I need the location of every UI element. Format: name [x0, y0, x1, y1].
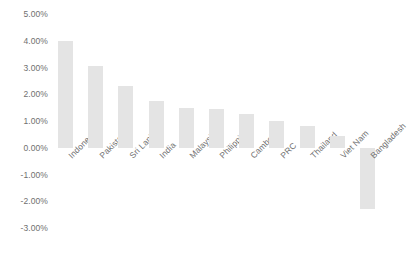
x-axis-tick-label: Bangladesh [369, 121, 407, 159]
bar [209, 109, 224, 148]
y-axis-tick-label: -3.00% [0, 224, 48, 233]
y-axis-tick-label: 4.00% [0, 37, 48, 46]
plot-area: IndonesiaPakistanSri LankaIndiaMalaysiaP… [52, 0, 415, 253]
y-axis-tick-label: 2.00% [0, 90, 48, 99]
y-axis: 5.00%4.00%3.00%2.00%1.00%0.00%-1.00%-2.0… [0, 0, 48, 253]
bar [269, 121, 284, 148]
bar [330, 136, 345, 148]
y-axis-tick-label: -2.00% [0, 197, 48, 206]
y-axis-tick-label: 3.00% [0, 63, 48, 72]
bar-chart: 5.00%4.00%3.00%2.00%1.00%0.00%-1.00%-2.0… [0, 0, 415, 253]
bar [179, 108, 194, 148]
bar [300, 126, 315, 147]
bar [118, 86, 133, 148]
bar [239, 114, 254, 147]
y-axis-tick-label: 1.00% [0, 117, 48, 126]
bar [88, 66, 103, 148]
bar [58, 41, 73, 148]
y-axis-tick-label: 0.00% [0, 144, 48, 153]
bar [149, 101, 164, 148]
y-axis-tick-label: 5.00% [0, 10, 48, 19]
y-axis-tick-label: -1.00% [0, 170, 48, 179]
